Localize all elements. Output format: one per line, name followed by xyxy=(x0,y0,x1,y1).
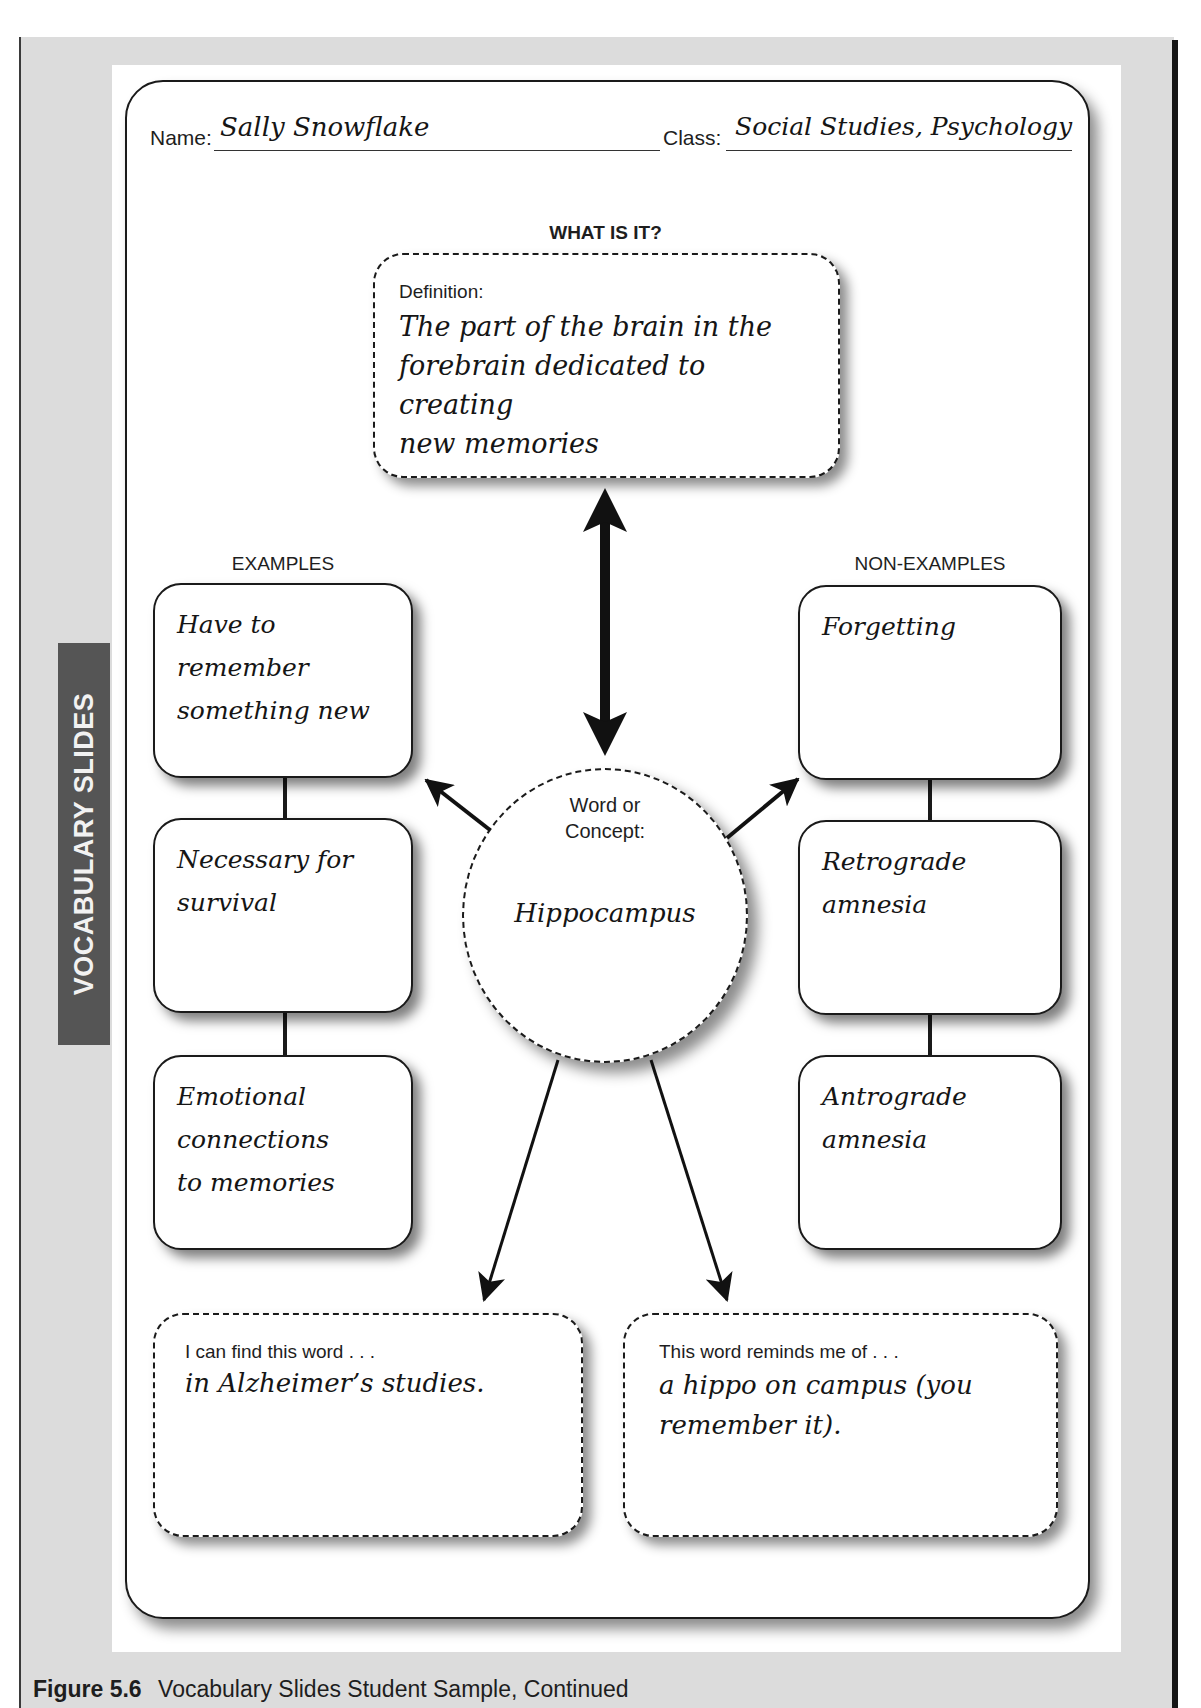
reminds-me-box[interactable]: This word reminds me of . . . a hippo on… xyxy=(623,1313,1058,1537)
find-word-box[interactable]: I can find this word . . . in Alzheimer’… xyxy=(153,1313,583,1537)
arrow-to-find-word-icon xyxy=(484,1060,558,1300)
figure-number: Figure 5.6 xyxy=(33,1676,142,1702)
find-word-value: in Alzheimer’s studies. xyxy=(185,1365,551,1401)
reminds-me-line: a hippo on campus (you xyxy=(659,1365,1022,1405)
figure-title: Vocabulary Slides Student Sample, Contin… xyxy=(158,1676,629,1702)
arrow-to-examples-icon xyxy=(426,780,490,830)
reminds-me-line: remember it). xyxy=(659,1405,1022,1445)
arrow-to-reminds-me-icon xyxy=(651,1060,727,1300)
figure-caption: Figure 5.6 Vocabulary Slides Student Sam… xyxy=(33,1676,629,1703)
arrow-to-non-examples-icon xyxy=(727,779,798,838)
reminds-me-label: This word reminds me of . . . xyxy=(659,1341,1022,1363)
find-word-label: I can find this word . . . xyxy=(185,1341,551,1363)
